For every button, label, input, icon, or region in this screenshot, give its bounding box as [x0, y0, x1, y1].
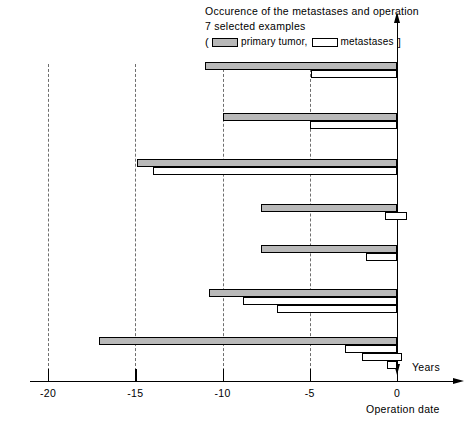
metastases-bar: [366, 253, 397, 261]
gridline--15: [135, 64, 136, 376]
x-tick-label--5: -5: [290, 387, 330, 399]
metastases-bar: [310, 121, 397, 129]
metastases-bar: [277, 305, 397, 313]
metastases-bar: [345, 345, 397, 353]
primary-tumor-bar: [205, 62, 397, 70]
metastases-bar: [311, 70, 397, 78]
hollow-bar-swatch-icon: [312, 38, 338, 47]
x-tick-label-0: 0: [377, 387, 417, 399]
legend-label-primary-tumor: primary tumor,: [241, 35, 308, 49]
chart-subtitle: 7 selected examples: [205, 19, 455, 34]
x-axis-unit-label: Years: [412, 361, 440, 373]
gridline--10: [223, 64, 224, 376]
filled-bar-swatch-icon: [212, 38, 238, 47]
x-axis-arrow-icon: [453, 378, 464, 384]
metastases-bar: [385, 212, 408, 220]
x-axis-line: [30, 381, 455, 382]
y-axis-arrow-icon: [394, 12, 400, 23]
tick-mark--15: [135, 369, 136, 381]
legend-label-metastases: metastases: [341, 35, 394, 49]
x-tick-label--10: -10: [203, 387, 243, 399]
primary-tumor-bar: [99, 337, 397, 345]
primary-tumor-bar: [261, 245, 397, 253]
metastases-bar: [362, 353, 402, 361]
metastases-bar: [387, 361, 397, 369]
tick-mark--10: [223, 369, 224, 381]
x-tick-label--15: -15: [115, 387, 155, 399]
chart-legend: ( primary tumor, metastases ]: [205, 35, 455, 49]
primary-tumor-bar: [209, 289, 397, 297]
legend-open-paren: (: [205, 35, 209, 49]
primary-tumor-bar: [137, 159, 397, 167]
chart-title-block: Occurence of the metastases and operatio…: [205, 4, 455, 49]
origin-caption-operation-date: Operation date: [366, 403, 440, 415]
chart-title: Occurence of the metastases and operatio…: [205, 4, 455, 19]
metastases-bar: [153, 167, 397, 175]
primary-tumor-bar: [261, 204, 397, 212]
x-tick-label--20: -20: [28, 387, 68, 399]
primary-tumor-bar: [223, 113, 398, 121]
gridline--5: [310, 64, 311, 376]
metastases-bar: [243, 297, 397, 305]
gridline--20: [48, 64, 49, 376]
tick-mark--5: [310, 369, 311, 381]
tick-mark--20: [48, 369, 49, 381]
y-axis-line-operation-date: [397, 22, 398, 381]
